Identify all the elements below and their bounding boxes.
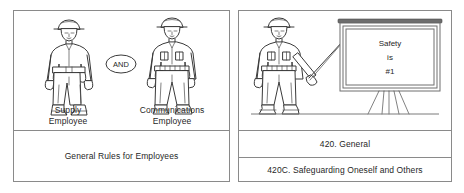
- easel-tripod-icon: [368, 91, 409, 114]
- right-panel-artwork: Safety is #1: [239, 11, 451, 130]
- sign-line-2: is: [387, 53, 393, 62]
- section-420c-text: 420C. Safeguarding Oneself and Others: [267, 165, 422, 175]
- section-420c-row: 420C. Safeguarding Oneself and Others: [239, 157, 451, 182]
- right-panel: Safety is #1 420. General: [238, 10, 452, 182]
- safety-sign: Safety is #1: [338, 19, 442, 91]
- sign-line-3: #1: [386, 67, 395, 76]
- supply-employee-figure: [45, 20, 93, 115]
- section-420-row: 420. General: [239, 130, 451, 157]
- section-420-text: 420. General: [320, 139, 370, 149]
- illustration-canvas: AND: [0, 0, 464, 193]
- communications-employee-caption: Communications Employee: [117, 105, 227, 126]
- general-rules-row: General Rules for Employees: [14, 130, 229, 182]
- instructor-employee-figure: [254, 18, 343, 114]
- sign-line-1: Safety: [379, 39, 402, 48]
- sign-top-rail: [338, 19, 442, 23]
- left-panel: AND: [13, 10, 230, 182]
- instructor-and-sign-graphic: Safety is #1: [239, 11, 451, 130]
- left-panel-captions: Supply Employee Communications Employee: [14, 103, 229, 129]
- and-connector: AND: [106, 55, 136, 73]
- supply-employee-caption: Supply Employee: [20, 105, 116, 126]
- communications-employee-figure: [147, 18, 196, 114]
- general-rules-text: General Rules for Employees: [65, 151, 179, 161]
- and-label: AND: [113, 60, 129, 69]
